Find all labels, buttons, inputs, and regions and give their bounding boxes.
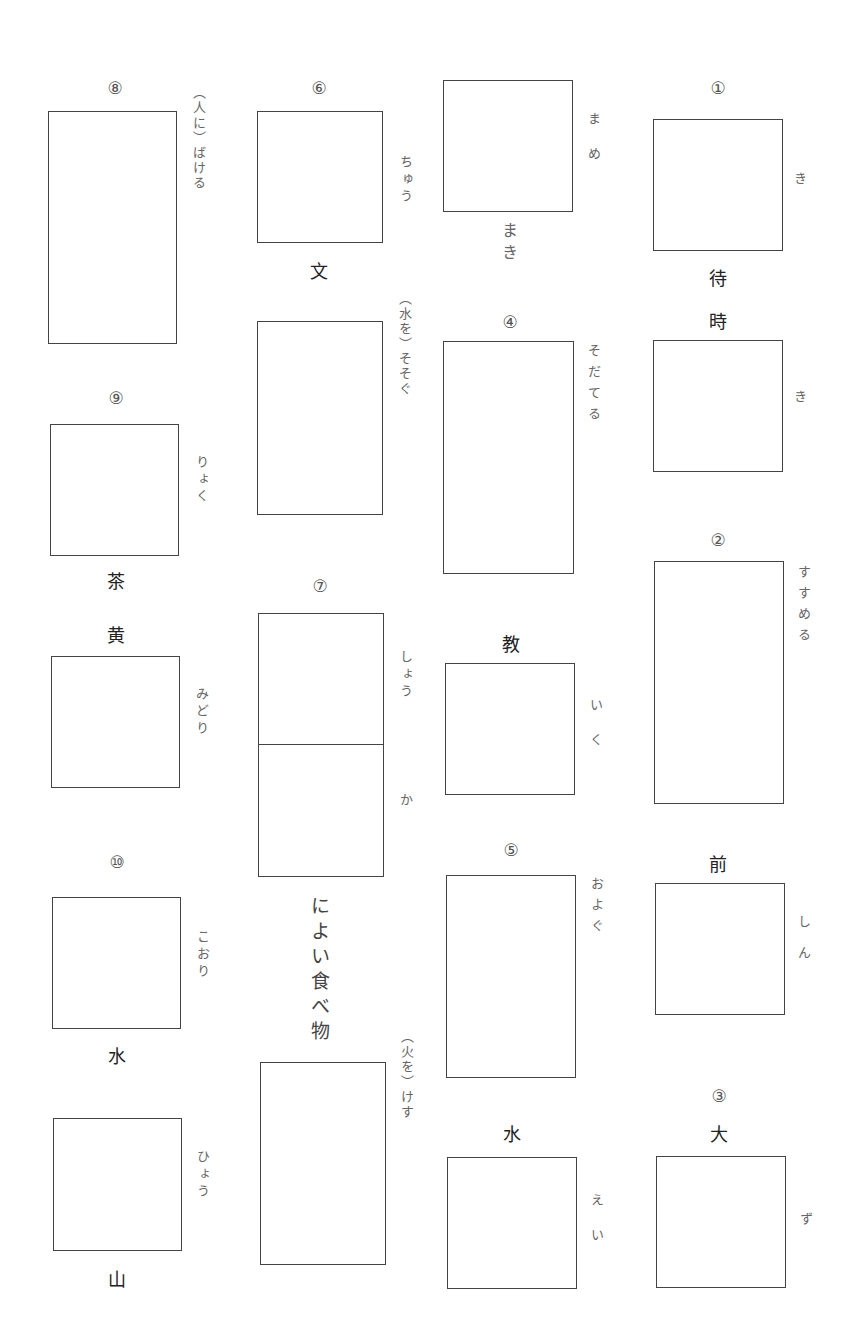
- question-7-number: ⑦: [305, 576, 335, 596]
- kanji-10a: 水: [102, 1042, 132, 1068]
- answer-box-9a[interactable]: [50, 424, 179, 556]
- text-below-7: によい食べ物: [308, 896, 330, 1046]
- reading-7b: か: [396, 793, 414, 814]
- answer-box-3[interactable]: [656, 1156, 786, 1288]
- answer-box-2b[interactable]: [655, 883, 785, 1015]
- question-3-number: ③: [704, 1086, 734, 1106]
- kanji-3: 大: [704, 1120, 734, 1146]
- answer-box-1a[interactable]: [653, 119, 783, 251]
- box-divider: [259, 744, 383, 745]
- reading-10a: こおり: [193, 930, 211, 981]
- answer-box-6b[interactable]: [257, 321, 383, 515]
- kanji-9b: 黄: [101, 621, 131, 647]
- reading-5b: えい: [587, 1193, 605, 1263]
- reading-1b: き: [790, 390, 808, 411]
- kanji-6: 文: [304, 257, 334, 283]
- answer-box-5b[interactable]: [447, 1157, 577, 1289]
- reading-6a: ちゅう: [396, 155, 414, 206]
- reading-5a: およぐ: [587, 877, 605, 940]
- answer-box-10a[interactable]: [52, 897, 181, 1029]
- answer-box-5a[interactable]: [446, 875, 576, 1078]
- answer-box-4b[interactable]: [445, 663, 575, 795]
- reading-9a: りょく: [192, 455, 210, 506]
- question-1-number: ①: [703, 78, 733, 98]
- answer-box-7[interactable]: [258, 613, 384, 877]
- reading-9b: みどり: [192, 687, 210, 738]
- text-below-mame: まき: [499, 222, 517, 266]
- question-8-number: ⑧: [100, 78, 130, 98]
- kanji-2b: 前: [703, 850, 733, 876]
- answer-box-9b[interactable]: [51, 656, 180, 788]
- reading-7a: しょう: [396, 650, 414, 701]
- answer-box-6a[interactable]: [257, 111, 383, 243]
- reading-4b: いく: [586, 698, 604, 768]
- kanji-4b: 教: [496, 630, 526, 656]
- kanji-5b: 水: [497, 1120, 527, 1146]
- reading-1a: き: [790, 172, 808, 193]
- question-4-number: ④: [495, 312, 525, 332]
- reading-4a: そだてる: [584, 344, 602, 428]
- reading-3: ず: [796, 1212, 814, 1233]
- question-10-number: ⑩: [102, 852, 132, 872]
- kanji-10b: 山: [102, 1265, 132, 1291]
- question-9-number: ⑨: [101, 388, 131, 408]
- kanji-1b: 時: [703, 307, 733, 333]
- answer-box-mame[interactable]: [443, 80, 573, 212]
- question-6-number: ⑥: [304, 78, 334, 98]
- answer-box-1b[interactable]: [653, 340, 783, 472]
- reading-6b: （水を）そそぐ: [395, 292, 413, 397]
- answer-box-2a[interactable]: [654, 561, 784, 804]
- reading-2a: すすめる: [794, 565, 812, 649]
- answer-box-4a[interactable]: [443, 341, 574, 574]
- reading-7c: （火を）けす: [397, 1030, 415, 1120]
- question-2-number: ②: [703, 530, 733, 550]
- question-5-number: ⑤: [496, 840, 526, 860]
- reading-10b: ひょう: [193, 1150, 211, 1201]
- reading-mame: まめ: [584, 112, 602, 182]
- reading-2b: しん: [794, 915, 812, 977]
- reading-8: （人に）ばける: [189, 86, 207, 191]
- kanji-1a: 待: [703, 264, 733, 290]
- answer-box-10b[interactable]: [53, 1118, 182, 1251]
- answer-box-7b[interactable]: [260, 1062, 386, 1265]
- kanji-9a: 茶: [101, 567, 131, 593]
- answer-box-8[interactable]: [48, 111, 177, 344]
